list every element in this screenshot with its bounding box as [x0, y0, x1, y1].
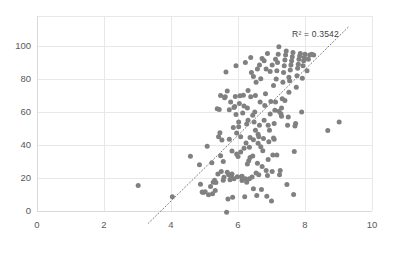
data-point	[217, 130, 222, 135]
x-axis-tick-label: 8	[293, 220, 317, 230]
data-point	[231, 176, 236, 181]
data-point	[286, 75, 291, 80]
data-point	[276, 52, 281, 57]
data-point	[246, 88, 251, 93]
x-axis-tick-label: 2	[92, 220, 116, 230]
data-point	[290, 50, 295, 55]
data-point	[272, 137, 277, 142]
data-point	[293, 121, 298, 126]
data-point	[292, 149, 297, 154]
data-point	[236, 119, 241, 124]
data-point	[303, 52, 308, 57]
data-point	[325, 128, 330, 133]
data-point	[262, 103, 267, 108]
data-point	[270, 62, 275, 67]
data-point	[285, 123, 290, 128]
data-point	[218, 153, 223, 158]
data-point	[254, 193, 259, 198]
y-axis-tick-label: 40	[5, 140, 31, 150]
data-point	[231, 125, 236, 130]
axis-lines	[37, 16, 372, 212]
data-point	[229, 148, 234, 153]
data-point	[236, 124, 241, 129]
data-point	[254, 80, 259, 85]
data-point	[337, 119, 342, 124]
data-point	[269, 199, 274, 204]
data-point	[188, 154, 193, 159]
data-point	[248, 155, 253, 160]
data-point	[244, 141, 249, 146]
data-point	[276, 109, 281, 114]
data-point	[229, 171, 234, 176]
data-point	[300, 76, 305, 81]
plot-canvas	[0, 0, 400, 261]
data-point	[266, 157, 271, 162]
data-point	[270, 169, 275, 174]
data-point	[273, 100, 278, 105]
data-point	[256, 172, 261, 177]
data-point	[208, 184, 213, 189]
data-point	[251, 74, 256, 79]
data-point	[240, 110, 245, 115]
data-point	[263, 91, 268, 96]
data-point	[282, 63, 287, 68]
data-point	[243, 60, 248, 65]
data-point	[197, 162, 202, 167]
data-point	[227, 137, 232, 142]
data-point	[215, 171, 220, 176]
data-point	[257, 62, 262, 67]
data-point	[266, 123, 271, 128]
y-axis-tick-label: 100	[5, 41, 31, 51]
data-point	[284, 48, 289, 53]
data-point	[228, 100, 233, 105]
data-point	[264, 194, 269, 199]
data-point	[238, 134, 243, 139]
data-point	[281, 70, 286, 75]
data-point	[247, 145, 252, 150]
data-point	[223, 70, 228, 75]
data-point	[260, 164, 265, 169]
data-point	[237, 101, 242, 106]
data-point	[261, 136, 266, 141]
data-point	[223, 94, 228, 99]
x-axis-tick-label: 10	[360, 220, 384, 230]
data-point	[209, 160, 214, 165]
data-point	[262, 118, 267, 123]
data-point	[274, 68, 279, 73]
data-point	[262, 58, 267, 63]
data-point	[233, 112, 238, 117]
data-point	[291, 192, 296, 197]
data-point	[265, 51, 270, 56]
data-point	[256, 132, 261, 137]
data-point	[253, 93, 258, 98]
data-point	[227, 107, 232, 112]
data-point	[221, 159, 226, 164]
data-point	[255, 161, 260, 166]
data-point	[273, 57, 278, 62]
scatter-chart: R² = 0.3542 0204060801000246810	[0, 0, 400, 261]
data-point	[205, 144, 210, 149]
data-point	[274, 152, 279, 157]
data-point	[279, 114, 284, 119]
data-point	[267, 128, 272, 133]
data-point	[219, 138, 224, 143]
data-point	[248, 94, 253, 99]
data-point	[271, 83, 276, 88]
data-point	[294, 73, 299, 78]
data-point	[225, 196, 230, 201]
data-point	[268, 69, 273, 74]
data-point	[296, 62, 301, 67]
data-point	[210, 191, 215, 196]
data-point	[286, 90, 291, 95]
data-point	[276, 44, 281, 49]
data-point	[258, 144, 263, 149]
data-point	[268, 111, 273, 116]
data-point	[264, 168, 269, 173]
data-point	[242, 194, 247, 199]
data-point	[233, 94, 238, 99]
data-point	[278, 168, 283, 173]
data-point	[282, 98, 287, 103]
data-point	[284, 182, 289, 187]
data-point	[272, 121, 277, 126]
data-point	[248, 55, 253, 60]
